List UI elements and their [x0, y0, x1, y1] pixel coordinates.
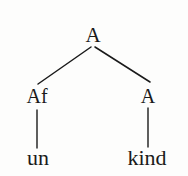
- tree-node-adjective: A: [141, 86, 155, 106]
- syntax-tree-figure: A Af A un kind: [0, 0, 188, 176]
- edge-root-to-af: [38, 47, 91, 84]
- tree-leaf-un: un: [27, 147, 49, 169]
- tree-node-affix: Af: [26, 86, 47, 106]
- edge-root-to-a: [95, 47, 150, 82]
- tree-node-root: A: [85, 25, 100, 46]
- tree-leaf-kind: kind: [127, 147, 166, 169]
